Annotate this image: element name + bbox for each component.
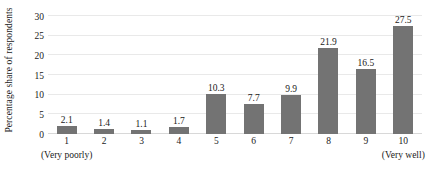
- bar[interactable]: [169, 127, 189, 134]
- bar-slot: 16.5: [347, 8, 384, 134]
- scale-anchor-label: (Very well): [382, 150, 425, 160]
- bar-slot: 27.5: [385, 8, 422, 134]
- y-tick-label: 15: [24, 71, 44, 81]
- bars-layer: 2.11.41.11.710.37.79.921.916.527.5: [48, 8, 422, 134]
- bar[interactable]: [393, 26, 413, 134]
- x-tick-label: 5: [214, 136, 219, 146]
- bar-value-label: 2.1: [61, 115, 73, 125]
- x-tick-label: 3: [139, 136, 144, 146]
- y-axis-tick-labels: 051015202530: [22, 8, 44, 134]
- bar-slot: 1.1: [123, 8, 160, 134]
- bar[interactable]: [244, 104, 264, 134]
- y-axis-title-text: Percentage share of respondents: [4, 7, 14, 132]
- bar-value-label: 10.3: [208, 83, 225, 93]
- bar-value-label: 16.5: [358, 58, 375, 68]
- bar-chart-figure: Percentage share of respondents 05101520…: [0, 0, 426, 172]
- y-tick-label: 0: [24, 130, 44, 140]
- bar-value-label: 9.9: [285, 84, 297, 94]
- bar-value-label: 21.9: [320, 37, 337, 47]
- bar-value-label: 7.7: [248, 93, 260, 103]
- x-tick-label: 10: [399, 136, 409, 146]
- x-tick-label: 8: [326, 136, 331, 146]
- x-tick-label: 1: [64, 136, 69, 146]
- y-axis-title: Percentage share of respondents: [0, 0, 18, 140]
- x-tick-label: 6: [251, 136, 256, 146]
- bar-value-label: 27.5: [395, 15, 412, 25]
- bar-slot: 7.7: [235, 8, 272, 134]
- x-tick-label: 9: [364, 136, 369, 146]
- bar[interactable]: [57, 126, 77, 134]
- bar[interactable]: [206, 94, 226, 135]
- y-tick-label: 25: [24, 31, 44, 41]
- bar-value-label: 1.4: [98, 118, 110, 128]
- bar-slot: 9.9: [272, 8, 309, 134]
- y-tick-label: 5: [24, 110, 44, 120]
- bar[interactable]: [94, 129, 114, 135]
- bar-slot: 2.1: [48, 8, 85, 134]
- bar-value-label: 1.1: [136, 119, 148, 129]
- scale-anchor-label: (Very poorly): [41, 150, 92, 160]
- bar[interactable]: [131, 130, 151, 134]
- bar-slot: 21.9: [310, 8, 347, 134]
- bar-slot: 1.4: [85, 8, 122, 134]
- bar-slot: 10.3: [198, 8, 235, 134]
- x-tick-label: 7: [289, 136, 294, 146]
- x-axis-tick-labels: 12345678910: [48, 136, 422, 150]
- x-tick-label: 4: [177, 136, 182, 146]
- y-tick-label: 20: [24, 51, 44, 61]
- bar-slot: 1.7: [160, 8, 197, 134]
- y-tick-label: 10: [24, 90, 44, 100]
- bar[interactable]: [356, 69, 376, 134]
- y-tick-label: 30: [24, 12, 44, 22]
- bar[interactable]: [281, 95, 301, 134]
- x-tick-label: 2: [102, 136, 107, 146]
- bar[interactable]: [318, 48, 338, 134]
- bar-value-label: 1.7: [173, 116, 185, 126]
